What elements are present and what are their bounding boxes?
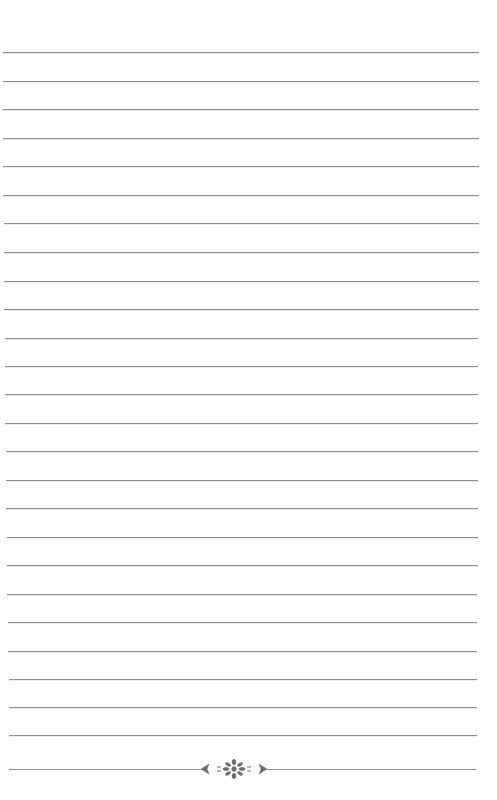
ruled-line <box>4 252 479 253</box>
ruled-line <box>4 309 479 310</box>
ruled-line <box>9 679 477 680</box>
ruled-line <box>5 394 478 395</box>
ruled-line <box>8 651 477 652</box>
footer-line-left <box>9 769 201 770</box>
ruled-line <box>6 480 478 481</box>
ruled-line <box>3 138 479 139</box>
lined-paper-page <box>0 0 497 800</box>
ruled-line <box>4 281 479 282</box>
ruled-line <box>6 508 478 509</box>
ruled-line <box>9 707 477 708</box>
ruled-line <box>3 109 479 110</box>
ruled-line <box>5 366 478 367</box>
floral-divider-icon <box>199 758 269 780</box>
ruled-line <box>9 735 477 736</box>
ruled-line <box>7 594 477 595</box>
ruled-line <box>5 423 478 424</box>
ruled-line <box>3 195 479 196</box>
ruled-line <box>3 81 479 82</box>
ruled-line <box>7 537 478 538</box>
ruled-line <box>7 565 478 566</box>
ruled-line <box>8 622 477 623</box>
footer-line-right <box>267 769 476 770</box>
ruled-line <box>5 338 478 339</box>
ruled-line <box>4 223 479 224</box>
ruled-line <box>6 451 478 452</box>
ruled-line <box>3 52 479 53</box>
ruled-line <box>3 166 479 167</box>
